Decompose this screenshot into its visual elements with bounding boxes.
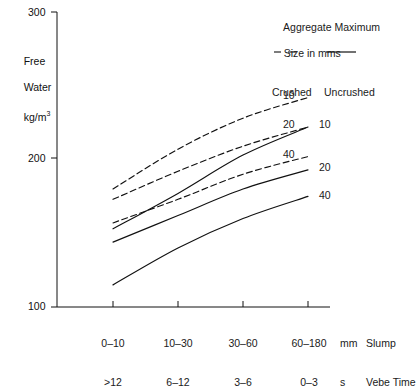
legend-title-line1: Aggregate Maximum xyxy=(283,21,380,33)
x-category-slump-0: 0–10 xyxy=(88,337,138,350)
legend-crushed-label: Crushed xyxy=(272,86,324,99)
series-curves-layer xyxy=(113,98,308,285)
series-end-label-crushed-40: 40 xyxy=(283,148,295,160)
x-axis-unit-slump: mm xyxy=(340,337,358,350)
x-category-label-1: 10–30 6–12 xyxy=(152,311,204,390)
x-category-label-3: 60–180 0–3 xyxy=(281,311,337,390)
series-curve-crushed-20 xyxy=(113,127,308,199)
y-axis-title-line1: Free xyxy=(24,55,46,67)
series-end-label-uncrushed-40: 40 xyxy=(319,189,331,201)
y-axis-title-line2: Water xyxy=(24,81,52,93)
x-category-vebe-3: 0–3 xyxy=(281,376,337,389)
y-tick-label-200: 200 xyxy=(28,152,46,165)
x-axis-unit-vebe: s xyxy=(340,376,358,389)
legend-title-line2: Size in mms xyxy=(284,47,341,59)
legend-uncrushed-label: Uncrushed xyxy=(324,86,375,99)
y-tick-label-300: 300 xyxy=(28,6,46,19)
x-axis-title: Slump Vebe Time xyxy=(366,311,416,390)
y-axis-title-exponent: 3 xyxy=(46,110,50,117)
series-end-label-uncrushed-10: 10 xyxy=(319,118,331,130)
x-category-slump-1: 10–30 xyxy=(152,337,204,350)
x-category-label-0: 0–10 >12 xyxy=(88,311,138,390)
x-category-slump-3: 60–180 xyxy=(281,337,337,350)
y-axis-title-line3: kg/m xyxy=(24,111,47,123)
x-axis-title-vebe: Vebe Time xyxy=(366,376,416,389)
x-axis-title-slump: Slump xyxy=(366,337,416,350)
legend: Aggregate Maximum Size in mms CrushedUnc… xyxy=(272,8,380,125)
series-end-label-crushed-10: 10 xyxy=(283,89,295,101)
x-category-vebe-1: 6–12 xyxy=(152,376,204,389)
series-curve-uncrushed-40 xyxy=(113,196,308,285)
x-category-vebe-2: 3–6 xyxy=(217,376,269,389)
series-end-label-crushed-20: 20 xyxy=(283,118,295,130)
x-category-vebe-0: >12 xyxy=(88,376,138,389)
x-category-label-2: 30–60 3–6 xyxy=(217,311,269,390)
x-category-slump-2: 30–60 xyxy=(217,337,269,350)
series-end-label-uncrushed-20: 20 xyxy=(319,161,331,173)
x-axis-units: mm s xyxy=(340,311,358,390)
y-axis-title: Free Water kg/m3 xyxy=(12,42,51,137)
y-tick-label-100: 100 xyxy=(28,300,46,313)
